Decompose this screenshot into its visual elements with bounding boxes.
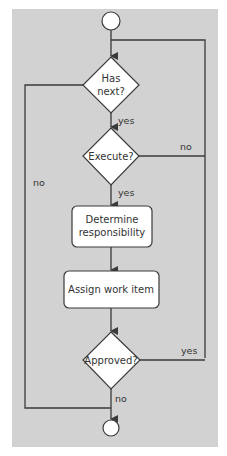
start-node [102,12,120,30]
process-determine-line1: Determine [86,214,139,225]
label-execute-no: no [180,141,192,152]
decision-has-next-line2: next? [97,86,124,97]
decision-has-next-line1: Has [102,73,121,84]
flowchart-svg: Has next? Execute? Determine responsibil… [0,0,227,456]
label-execute-yes: yes [118,187,134,198]
end-node [103,420,119,436]
decision-approved: Approved? [83,332,140,389]
process-assign-work-item: Assign work item [64,271,159,308]
flowchart-canvas: Has next? Execute? Determine responsibil… [0,0,227,456]
decision-has-next: Has next? [83,57,139,113]
label-has-next-no: no [33,177,45,188]
label-approved-no: no [115,393,127,404]
label-approved-yes: yes [181,345,197,356]
decision-approved-label: Approved? [84,355,137,366]
process-determine-responsibility: Determine responsibility [72,206,152,247]
decision-execute-label: Execute? [88,151,133,162]
decision-execute: Execute? [83,128,139,185]
label-has-next-yes: yes [118,115,134,126]
process-determine-line2: responsibility [79,227,146,238]
process-assign-label: Assign work item [68,284,154,295]
